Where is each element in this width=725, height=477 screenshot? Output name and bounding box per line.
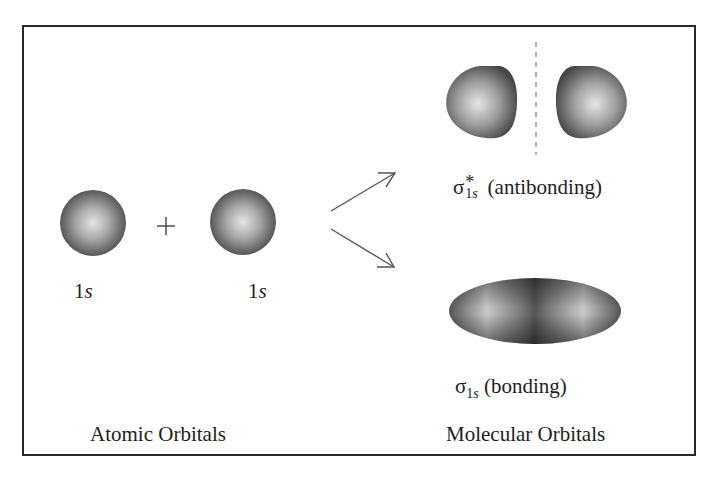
molecular-orbitals-caption: Molecular Orbitals xyxy=(446,424,605,445)
antibonding-label: σ*1s (antibonding) xyxy=(453,177,602,198)
arrow-to-bonding-icon xyxy=(331,229,394,267)
atomic-orbitals-caption: Atomic Orbitals xyxy=(90,424,226,445)
antibonding-lobe-right xyxy=(556,66,627,138)
atomic-orbital-1s-left xyxy=(60,190,126,256)
bonding-orbital-shade xyxy=(449,278,621,344)
atomic-label-left: 1s xyxy=(74,281,93,302)
diagram-art xyxy=(0,0,725,477)
arrow-to-antibonding-icon xyxy=(331,173,395,211)
bonding-label: σ1s (bonding) xyxy=(455,376,567,397)
antibonding-lobe-left xyxy=(446,66,517,138)
atomic-label-right: 1s xyxy=(248,281,267,302)
atomic-orbital-1s-right xyxy=(210,189,276,255)
plus-icon xyxy=(157,217,175,235)
